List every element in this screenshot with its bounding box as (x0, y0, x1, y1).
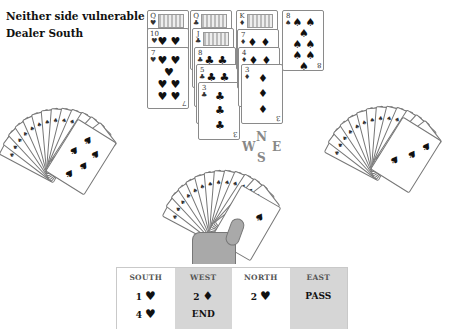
bid: 2 ♥ (232, 287, 290, 305)
bidding-table: SOUTH 1 ♥ 4 ♥ WEST 2 ♦ END NORTH 2 ♥ EAS… (116, 267, 348, 329)
face-art (158, 14, 184, 28)
bidding-column-east: EAST PASS (290, 268, 348, 329)
bid: 4 ♥ (117, 305, 175, 323)
bidding-header: NORTH (232, 273, 290, 287)
face-art (201, 14, 227, 28)
west-hand[interactable]: ♠ ♠ ♠ ♠ ♠ ♠ ♠ ♠ ♠ ♠ ♠ ♠ ♠♠♠♠♠♠ (60, 170, 61, 171)
card-heart-7[interactable]: 7♥ ♥♥♥♥♥♥♥ 7 (147, 47, 189, 109)
dealer-text: Dealer South (6, 25, 145, 42)
bid: 1 ♥ (117, 287, 175, 305)
bidding-header: EAST (290, 273, 348, 287)
bidding-header: SOUTH (117, 273, 175, 287)
face-art (203, 32, 229, 46)
end-button[interactable]: END (175, 305, 233, 323)
bid: PASS (290, 287, 348, 305)
vulnerability-text: Neither side vulnerable (6, 8, 145, 25)
east-hand[interactable]: ♠ ♠ ♠ ♠ ♠ ♠ ♠ ♠ ♠ ♠ ♠ ♠ ♠♠♠♠ (385, 168, 386, 169)
compass-south: S (257, 151, 266, 165)
compass-east: E (272, 140, 281, 154)
card-club-3[interactable]: 3♣ ♣♣♣ 3 (198, 82, 240, 140)
bidding-column-south: SOUTH 1 ♥ 4 ♥ (117, 268, 175, 329)
bidding-header: WEST (175, 273, 233, 287)
deal-info: Neither side vulnerable Dealer South (6, 8, 145, 42)
bidding-column-west: WEST 2 ♦ END (175, 268, 233, 329)
compass-north: N (256, 130, 267, 144)
compass-west: W (242, 140, 255, 154)
bidding-column-north: NORTH 2 ♥ (232, 268, 290, 329)
face-art (247, 14, 273, 28)
bid: 2 ♦ (175, 287, 233, 305)
card-diamond-3[interactable]: 3♦ ♦♦♦ 3 (241, 64, 283, 124)
card-spade-8[interactable]: 8♠ ♠♠♠♠♠♠♠♠ 8 (282, 10, 324, 71)
